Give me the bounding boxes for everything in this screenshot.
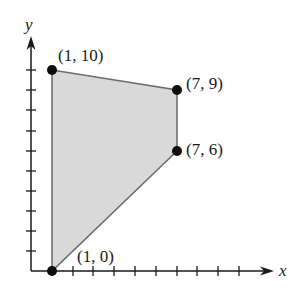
feasible-region-diagram: y x (1, 10) (7, 9) (7, 6) (1, 0) — [0, 0, 298, 293]
vertex-label-1-10: (1, 10) — [58, 46, 103, 65]
x-axis-label: x — [278, 261, 287, 280]
vertex-point-1-0 — [47, 266, 57, 276]
y-axis-label: y — [23, 15, 33, 34]
x-axis: x — [31, 261, 287, 280]
vertex-point-7-9 — [172, 85, 182, 95]
shaded-region — [52, 70, 177, 271]
vertex-label-1-0: (1, 0) — [77, 247, 114, 266]
y-axis: y — [23, 15, 36, 271]
vertex-label-7-9: (7, 9) — [186, 74, 223, 93]
vertex-point-1-10 — [47, 65, 57, 75]
vertex-point-7-6 — [172, 146, 182, 156]
vertex-label-7-6: (7, 6) — [186, 140, 223, 159]
